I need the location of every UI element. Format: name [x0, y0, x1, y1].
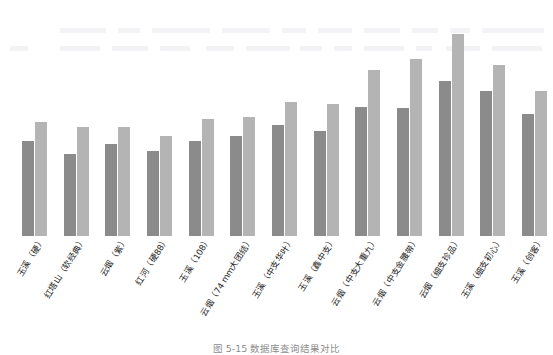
bar-column: 7.6	[202, 0, 214, 236]
bar-chart-plot-area: 6.27.45.37.16.07.15.56.56.27.66.57.77.28…	[0, 0, 553, 236]
bar-groups-container: 6.27.45.37.16.07.15.56.56.27.66.57.77.28…	[22, 0, 547, 236]
bar	[285, 102, 297, 236]
bar	[535, 91, 547, 236]
bar	[35, 122, 47, 236]
bar-column: 10.1	[439, 0, 451, 236]
bar-column: 8.6	[327, 0, 339, 236]
category-label: 玉溪（中支华叶）	[251, 236, 296, 301]
category-label: 云烟（中支金腰带）	[371, 236, 421, 308]
bar	[522, 114, 534, 236]
bar-column: 11.1	[493, 0, 505, 236]
category-label: 红塔山（软经典）	[43, 236, 88, 301]
bar-group: 10.113.1	[439, 0, 464, 236]
category-label: 云烟（细支珍品）	[418, 236, 463, 301]
bar	[243, 117, 255, 236]
bar	[368, 70, 380, 236]
bar-column: 6.2	[189, 0, 201, 236]
bar	[493, 65, 505, 236]
bar-group: 6.27.6	[189, 0, 214, 236]
category-label: 玉溪（鑫中支）	[297, 236, 338, 293]
bar-column: 6.2	[22, 0, 34, 236]
bar	[77, 127, 89, 236]
category-axis-labels: 玉溪（硬）红塔山（软经典）云烟（紫）红河（硬88）玉溪（108）云烟（74 mm…	[22, 236, 547, 336]
category-label: 红河（硬88）	[135, 236, 172, 287]
category-label: 云烟（紫）	[98, 236, 129, 278]
bar-column: 7.7	[243, 0, 255, 236]
bar-group: 7.99.4	[522, 0, 547, 236]
bar	[160, 136, 172, 236]
bar-group: 9.411.1	[480, 0, 505, 236]
bar	[230, 136, 242, 236]
bar	[202, 119, 214, 236]
bar-column: 6.5	[160, 0, 172, 236]
bar	[327, 104, 339, 236]
bar	[355, 107, 367, 236]
bar	[118, 127, 130, 236]
bar-column: 8.3	[397, 0, 409, 236]
bar	[64, 154, 76, 236]
bar-group: 5.37.1	[64, 0, 89, 236]
bar-group: 7.28.7	[272, 0, 297, 236]
bar-group: 5.56.5	[147, 0, 172, 236]
category-label: 玉溪（硬）	[15, 236, 46, 278]
bar	[147, 151, 159, 236]
bar-column: 11.5	[410, 0, 422, 236]
bar-group: 6.57.7	[230, 0, 255, 236]
category-label: 玉溪（108）	[178, 236, 213, 284]
bar	[397, 108, 409, 236]
bar-column: 6.0	[105, 0, 117, 236]
bar-column: 6.8	[314, 0, 326, 236]
bar-column: 7.4	[35, 0, 47, 236]
bar-group: 6.27.4	[22, 0, 47, 236]
bar-column: 13.1	[452, 0, 464, 236]
bar	[314, 131, 326, 236]
figure-caption: 图 5-15 数据库查询结果对比	[0, 341, 553, 355]
bar	[272, 125, 284, 236]
bar-group: 8.311.5	[397, 0, 422, 236]
bar-group: 8.410.8	[355, 0, 380, 236]
bar-column: 5.5	[147, 0, 159, 236]
bar-column: 6.5	[230, 0, 242, 236]
category-label: 玉溪（创客）	[510, 236, 546, 286]
bar	[105, 144, 117, 236]
category-label: 玉溪（细支初心）	[459, 236, 504, 301]
bar-group: 6.88.6	[314, 0, 339, 236]
bar	[439, 81, 451, 236]
bar-column: 5.3	[64, 0, 76, 236]
bar-column: 7.9	[522, 0, 534, 236]
bar-column: 7.2	[272, 0, 284, 236]
bar-column: 7.1	[77, 0, 89, 236]
bar-column: 10.8	[368, 0, 380, 236]
bar	[189, 141, 201, 236]
bar	[480, 91, 492, 236]
bar	[452, 34, 464, 236]
bar-column: 9.4	[480, 0, 492, 236]
bar-group: 6.07.1	[105, 0, 130, 236]
bar	[22, 141, 34, 236]
bar-column: 8.7	[285, 0, 297, 236]
bar-column: 7.1	[118, 0, 130, 236]
bar-column: 8.4	[355, 0, 367, 236]
bar	[410, 59, 422, 236]
bar-column: 9.4	[535, 0, 547, 236]
